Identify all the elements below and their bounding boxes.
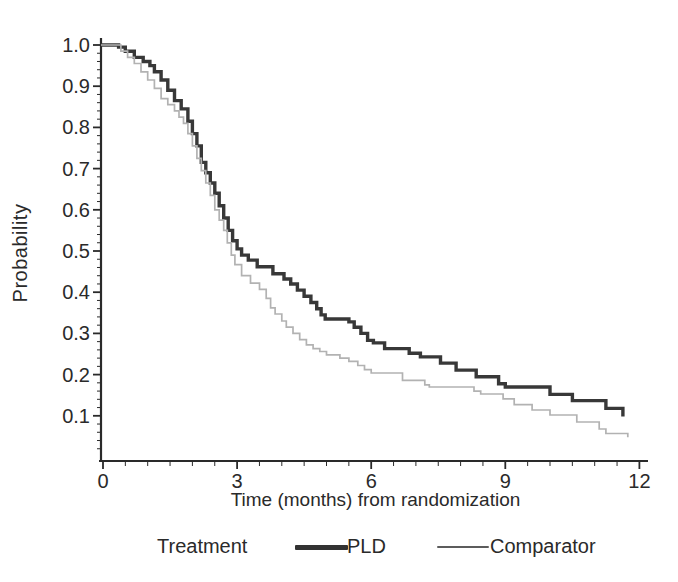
y-tick-label: 0.5 bbox=[62, 240, 90, 262]
y-tick-label: 0.6 bbox=[62, 199, 90, 221]
y-tick-label: 1.0 bbox=[62, 34, 90, 56]
y-tick-label: 0.2 bbox=[62, 364, 90, 386]
y-tick-label: 0.3 bbox=[62, 322, 90, 344]
y-tick-label: 0.8 bbox=[62, 116, 90, 138]
y-tick-label: 0.4 bbox=[62, 281, 90, 303]
pld-line-swatch-icon bbox=[295, 545, 348, 550]
legend-label-pld: PLD bbox=[347, 535, 386, 558]
legend-title: Treatment bbox=[157, 535, 247, 558]
y-axis-title: Probability bbox=[9, 143, 35, 363]
x-axis-title: Time (months) from randomization bbox=[103, 489, 648, 511]
legend: Treatment PLD Comparator bbox=[0, 533, 678, 563]
y-tick-label: 0.9 bbox=[62, 75, 90, 97]
y-tick-label: 0.7 bbox=[62, 158, 90, 180]
comparator-line-swatch-icon bbox=[437, 546, 489, 548]
survival-curve-pld bbox=[101, 45, 623, 417]
legend-label-comparator: Comparator bbox=[490, 535, 596, 558]
y-tick-label: 0.1 bbox=[62, 405, 90, 427]
km-figure: 0.10.20.30.40.50.60.70.80.91.0036912 Pro… bbox=[0, 0, 678, 582]
